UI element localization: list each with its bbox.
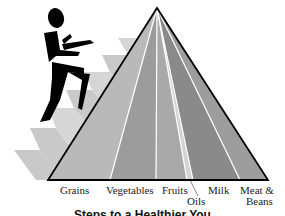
label-fruits: Fruits (162, 185, 188, 196)
label-vegetables: Vegetables (106, 185, 154, 196)
label-milk: Milk (208, 185, 229, 196)
label-grains: Grains (60, 185, 89, 196)
label-oils: Oils (187, 196, 205, 207)
figure-caption: Steps to a Healthier You (0, 208, 285, 216)
label-beans: Beans (246, 196, 273, 207)
